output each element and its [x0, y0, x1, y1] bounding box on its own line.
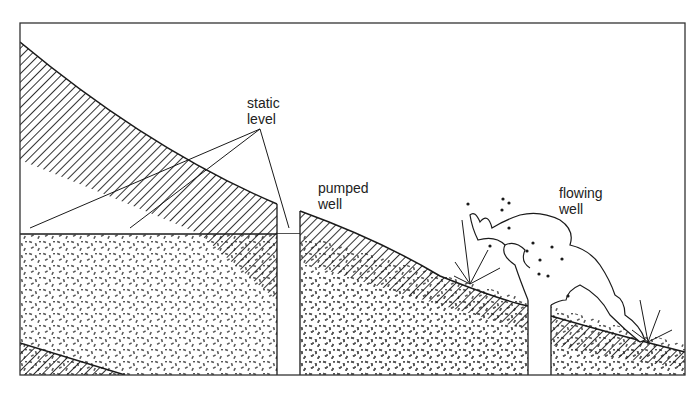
- label-flowing-line1: flowing: [559, 185, 603, 201]
- label-pumped-line2: well: [318, 196, 369, 212]
- label-flowing-line2: well: [559, 201, 603, 217]
- label-pumped-well: pumped well: [318, 180, 369, 212]
- pumped-well-shaft: [277, 234, 300, 375]
- label-static-line2: level: [247, 111, 280, 127]
- label-pumped-line1: pumped: [318, 180, 369, 196]
- label-flowing-well: flowing well: [559, 185, 603, 217]
- label-static-level: static level: [247, 95, 280, 127]
- label-static-line1: static: [247, 95, 280, 111]
- flowing-well-shaft: [528, 300, 551, 375]
